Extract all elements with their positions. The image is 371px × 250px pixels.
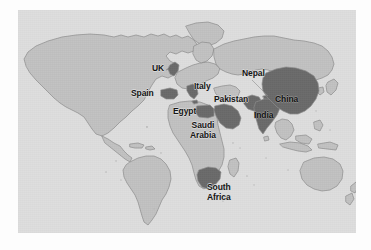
world-map-panel: UK Spain Italy Nepal Pakistan China Indi… (18, 10, 356, 233)
country-spain-highlight (161, 88, 178, 99)
world-map-graphic (18, 10, 356, 233)
country-egypt-highlight (195, 105, 214, 118)
country-sri-lanka (264, 136, 269, 141)
figure-root: UK Spain Italy Nepal Pakistan China Indi… (0, 0, 371, 250)
